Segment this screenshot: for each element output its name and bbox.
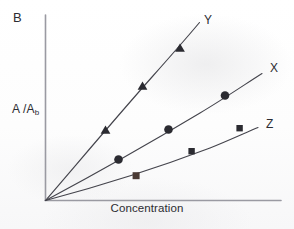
series-Y-curve [46, 23, 200, 201]
series-label-y: Y [204, 14, 212, 26]
circle-marker [221, 91, 230, 100]
y-axis-label-main: A /A [12, 102, 35, 116]
y-axis-label: A /Ab [12, 103, 39, 115]
series-Y [46, 23, 200, 201]
plot-canvas [0, 0, 294, 229]
series-X-curve [46, 74, 263, 201]
square-marker [188, 148, 194, 154]
axis-group [45, 15, 281, 201]
triangle-marker [175, 44, 185, 52]
square-marker [236, 125, 242, 131]
x-axis-label: Concentration [0, 203, 294, 215]
series-X [46, 74, 263, 201]
square-marker [133, 172, 140, 179]
y-axis-label-subscript: b [35, 108, 40, 117]
circle-marker [114, 155, 123, 164]
series-label-z: Z [266, 118, 274, 130]
triangle-marker [138, 82, 148, 90]
circle-marker [164, 125, 173, 134]
series-Y-markers [101, 44, 185, 134]
series-Z-markers [133, 125, 243, 179]
series-label-x: X [270, 62, 278, 74]
panel-label: B [13, 11, 22, 24]
figure-container: B A /Ab Concentration Y X Z [0, 0, 294, 229]
